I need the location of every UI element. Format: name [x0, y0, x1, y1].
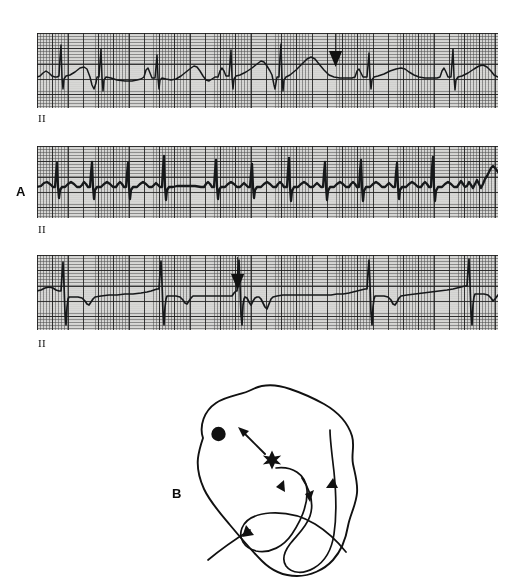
lead-label-1: II [38, 113, 46, 124]
ecg-trace-1 [37, 33, 498, 108]
ecg-trace-3 [37, 255, 498, 330]
ecg-strip-3 [37, 255, 498, 330]
heart-diagram [150, 382, 440, 581]
panel-label-a: A [16, 185, 26, 198]
ecg-figure: II II II A B [0, 0, 528, 581]
premature-beat-arrow-1 [326, 34, 346, 72]
ecg-strip-2 [37, 146, 498, 218]
lead-label-3: II [38, 338, 46, 349]
sinus-node-dot [211, 427, 225, 441]
ecg-strip-1 [37, 33, 498, 108]
premature-beat-arrow-3 [228, 257, 248, 295]
ecg-trace-2 [37, 146, 498, 218]
lead-label-2: II [38, 224, 46, 235]
